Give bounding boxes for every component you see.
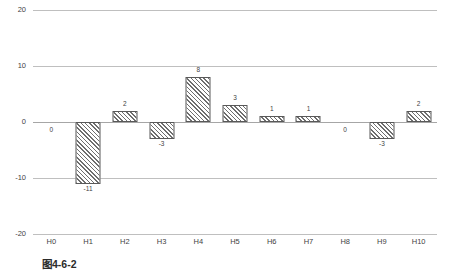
x-axis-tick-label: H5 (230, 238, 240, 246)
bar-value-label: -3 (379, 141, 385, 148)
bar-value-label: -3 (159, 141, 165, 148)
bar-value-label: 8 (196, 67, 200, 74)
x-axis-tick-label: H9 (377, 238, 387, 246)
x-axis-tick-label: H6 (267, 238, 277, 246)
bar-value-label: 3 (233, 95, 237, 102)
x-axis-tick-label: H4 (193, 238, 203, 246)
bar-category: 1 (253, 10, 290, 234)
bar[interactable] (406, 111, 431, 122)
bar-category: 8 (180, 10, 217, 234)
bar-category: -3 (143, 10, 180, 234)
bar-category: 0 (327, 10, 364, 234)
bar-value-label: 2 (123, 101, 127, 108)
bar[interactable] (296, 116, 321, 122)
x-axis-tick-labels: H0H1H2H3H4H5H6H7H8H9H10 (33, 238, 437, 252)
gridline (33, 234, 437, 235)
bar-category: 1 (290, 10, 327, 234)
bar[interactable] (222, 105, 247, 122)
y-axis-tick-label: 10 (18, 62, 26, 70)
y-axis-tick-label: 20 (18, 6, 26, 14)
bar-value-label: 1 (307, 106, 311, 113)
bar-series: 0-112-383110-32 (33, 10, 437, 234)
bar-value-label: 2 (417, 101, 421, 108)
x-axis-tick-label: H2 (120, 238, 130, 246)
bar-category: -3 (364, 10, 401, 234)
plot-area: 20100-10-20 0-112-383110-32 (33, 10, 437, 234)
figure-caption: 图4-6-2 (42, 259, 77, 270)
bar[interactable] (76, 122, 101, 184)
bar[interactable] (259, 116, 284, 122)
x-axis-tick-label: H7 (304, 238, 314, 246)
bar-category: 2 (400, 10, 437, 234)
bar-value-label: 0 (343, 127, 347, 134)
y-axis-tick-label: -20 (15, 230, 26, 238)
x-axis-tick-label: H3 (157, 238, 167, 246)
bar[interactable] (186, 77, 211, 122)
y-axis-tick-label: -10 (15, 174, 26, 182)
bar[interactable] (149, 122, 174, 139)
bar[interactable] (369, 122, 394, 139)
bar-category: 2 (106, 10, 143, 234)
bar-value-label: 0 (50, 127, 54, 134)
x-axis-tick-label: H8 (340, 238, 350, 246)
x-axis-tick-label: H1 (83, 238, 93, 246)
x-axis-tick-label: H0 (47, 238, 57, 246)
bar[interactable] (112, 111, 137, 122)
bar-category: -11 (70, 10, 107, 234)
bar-category: 0 (33, 10, 70, 234)
y-axis-tick-label: 0 (22, 118, 26, 126)
figure-container: 20100-10-20 0-112-383110-32 H0H1H2H3H4H5… (0, 0, 457, 279)
bar-value-label: 1 (270, 106, 274, 113)
x-axis-tick-label: H10 (412, 238, 426, 246)
bar-value-label: -11 (84, 186, 93, 193)
bar-category: 3 (217, 10, 254, 234)
